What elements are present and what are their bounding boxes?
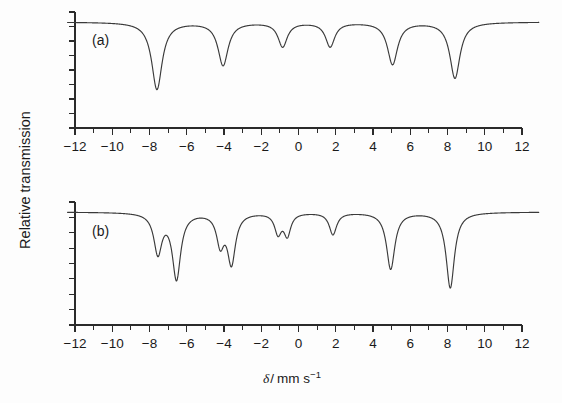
x-tick-label-b-6: 0 [295, 336, 303, 351]
x-tick-label-b-5: −2 [254, 336, 269, 351]
x-tick-label-a-7: 2 [332, 139, 340, 154]
x-tick-label-b-11: 10 [477, 336, 492, 351]
x-tick-label-a-11: 10 [477, 139, 492, 154]
panel-tag-b: (b) [92, 223, 109, 239]
x-tick-label-a-9: 6 [406, 139, 414, 154]
x-axis-label-unit: mm s [277, 371, 310, 386]
spectrum-curve-a [68, 22, 539, 89]
x-tick-label-b-1: −10 [101, 336, 124, 351]
x-tick-label-a-8: 4 [369, 139, 377, 154]
x-tick-label-a-5: −2 [254, 139, 269, 154]
y-axis-label-text: Relative transmission [17, 111, 33, 249]
spectrum-curve-b [68, 212, 539, 288]
x-tick-label-a-6: 0 [295, 139, 303, 154]
x-tick-label-b-9: 6 [406, 336, 414, 351]
x-tick-label-a-2: −8 [142, 139, 157, 154]
panel-a: −12−10−8−6−4−2024681012(a) [64, 12, 539, 154]
x-tick-label-b-10: 8 [444, 336, 452, 351]
x-tick-label-b-8: 4 [369, 336, 377, 351]
x-tick-label-b-4: −4 [216, 336, 232, 351]
figure-canvas: −12−10−8−6−4−2024681012(a) −12−10−8−6−4−… [0, 0, 562, 403]
x-axis-label-text: δ/mm s−1 [263, 369, 321, 386]
panel-tag-a: (a) [92, 32, 109, 48]
x-tick-label-a-10: 8 [444, 139, 452, 154]
x-tick-label-b-0: −12 [64, 336, 87, 351]
x-tick-label-a-4: −4 [216, 139, 232, 154]
x-axis-label-symbol: δ [263, 371, 270, 386]
x-tick-label-a-12: 12 [514, 139, 529, 154]
x-axis-label: δ/mm s−1 [263, 369, 321, 386]
x-tick-label-a-3: −6 [179, 139, 194, 154]
x-tick-label-a-0: −12 [64, 139, 87, 154]
x-tick-label-b-2: −8 [142, 336, 157, 351]
mossbauer-spectrum-figure: −12−10−8−6−4−2024681012(a) −12−10−8−6−4−… [0, 0, 562, 403]
x-tick-label-b-12: 12 [514, 336, 529, 351]
x-tick-label-a-1: −10 [101, 139, 124, 154]
x-axis-label-exponent: −1 [310, 369, 321, 380]
x-tick-label-b-7: 2 [332, 336, 340, 351]
x-tick-label-b-3: −6 [179, 336, 194, 351]
y-axis-label: Relative transmission [17, 111, 33, 249]
x-axis-label-separator: / [270, 371, 274, 386]
panel-b: −12−10−8−6−4−2024681012(b) [64, 202, 539, 351]
